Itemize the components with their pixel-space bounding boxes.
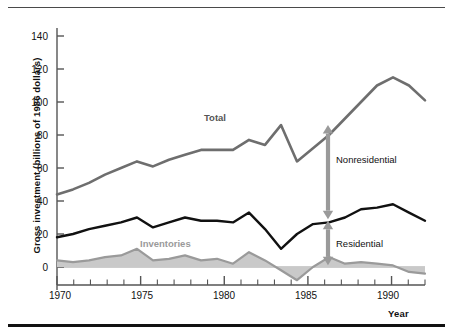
axis-layer	[57, 28, 425, 290]
series-layer	[57, 77, 425, 280]
annotation-arrow-layer	[323, 125, 333, 265]
figure-container: Gross investment (billions of 1986 dolla…	[0, 0, 450, 334]
chart-plot-area	[0, 0, 450, 334]
